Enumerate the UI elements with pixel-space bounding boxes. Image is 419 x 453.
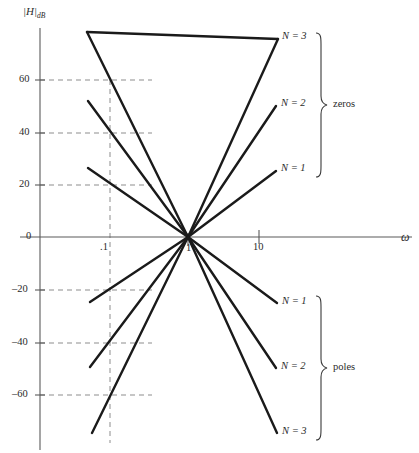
y-tick-label-20: 20 xyxy=(19,179,30,190)
curve-label-zero-n3: N = 3 xyxy=(282,31,307,42)
asymptote-zero-n1-right xyxy=(188,171,276,237)
bode-magnitude-figure: |H|dB ω 60 40 20 0 –20 –40 –60 .1 1 10 N… xyxy=(0,0,419,453)
asymptote-zero-n2-left xyxy=(88,101,188,237)
curve-label-pole-n1: N = 1 xyxy=(282,296,307,307)
y-tick-label-m40: –40 xyxy=(12,337,28,348)
x-axis-label: ω xyxy=(401,231,409,243)
asymptote-zero-n2-right xyxy=(188,106,276,237)
y-tick-label-60: 60 xyxy=(19,74,30,85)
y-axis-label-sub: dB xyxy=(37,11,45,20)
asymptote-lines xyxy=(87,32,278,433)
y-axis-label-text: |H| xyxy=(23,5,37,17)
guide-lines xyxy=(40,80,152,443)
curve-label-zero-n1: N = 1 xyxy=(281,163,306,174)
y-tick-label-m20: –20 xyxy=(12,284,28,295)
asymptote-zero-n3-right xyxy=(188,39,278,237)
asymptote-zero-n1-left xyxy=(88,168,188,237)
group-label-zeros: zeros xyxy=(333,99,355,110)
group-label-poles: poles xyxy=(333,362,355,373)
asymptote-pole-n2-left xyxy=(90,237,188,367)
brace-zeros xyxy=(316,33,327,177)
y-tick-label-m60: –60 xyxy=(12,389,28,400)
asymptote-pole-n2-right xyxy=(188,237,276,368)
curve-label-pole-n2: N = 2 xyxy=(281,361,306,372)
brace-poles xyxy=(316,296,327,440)
asymptote-zero-n3-left xyxy=(87,32,188,237)
asymptote-pole-n3-right xyxy=(188,237,277,433)
y-tick-label-40: 40 xyxy=(19,127,30,138)
curve-label-pole-n3: N = 3 xyxy=(282,426,307,437)
x-tick-label-1: 1 xyxy=(186,243,191,254)
y-tick-label-0: 0 xyxy=(26,231,31,242)
plot-canvas xyxy=(0,0,419,453)
y-axis-label: |H|dB xyxy=(23,6,45,20)
x-tick-label-10: 10 xyxy=(253,242,264,253)
asymptote-pole-n1-right xyxy=(188,237,277,303)
x-tick-label-point1: .1 xyxy=(100,242,108,253)
asymptote-zero-n3 xyxy=(87,32,278,39)
curve-label-zero-n2: N = 2 xyxy=(281,98,306,109)
axes xyxy=(20,28,412,450)
asymptote-pole-n3-left xyxy=(92,237,188,433)
